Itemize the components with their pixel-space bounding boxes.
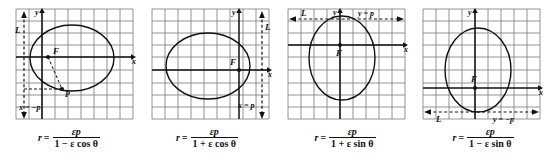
panel-2-formula: r = εp 1 + ε cos θ [138,126,276,162]
panel-1-formula: r = εp 1 − ε cos θ [0,126,138,162]
directrix-arrow-right [532,109,539,115]
panel-3-y-axis-label: y [332,8,337,17]
grid-lines [423,9,540,119]
panel-1-point-label: P [65,90,70,99]
panel-1-y-axis-label: y [34,8,39,17]
panel-1-graph: x y L x = −p F P [0,0,138,128]
panel-2-directrix-line-label: L [264,22,271,32]
panel-3-directrix-label: y = p [357,9,374,18]
directrix-arrow-left [424,109,431,115]
panel-2-graph: x y L x = p F [138,0,276,128]
panel-3-directrix-line-label: L [300,8,307,18]
panel-4-x-axis-label: x [538,88,543,97]
panel-3-formula-denominator: 1 + ε sin θ [329,138,375,149]
figure-panel-2: x y L x = p F r = εp 1 + ε cos θ [138,0,276,162]
axes [423,11,538,119]
panel-1-directrix-line-label: L [14,25,21,35]
panel-4-svg: x y L y = −p F [414,0,552,128]
panel-2-formula-denominator: 1 + ε cos θ [191,138,239,149]
conic-figure-strip: x y L x = −p F P r = εp [0,0,555,162]
figure-panel-1: x y L x = −p F P r = εp [0,0,138,162]
panel-3-formula-lhs: r [314,132,318,143]
panel-3-x-axis-label: x [403,45,408,54]
panel-4-formula: r = εp 1 − ε sin θ [414,126,552,162]
panel-2-formula-equals: = [182,132,188,143]
panel-2-focus-label: F [229,57,236,67]
panel-1-formula-numerator: εp [69,126,84,137]
panel-4-y-axis-label: y [467,8,472,17]
axes [288,11,403,119]
panel-3-svg: x y L y = p F [276,0,414,128]
panel-1-focus-label: F [52,46,59,56]
focus-point [237,68,241,72]
panel-2-directrix-label: x = p [237,101,255,110]
panel-2-svg: x y L x = p F [138,0,276,128]
grid-lines [288,9,405,119]
panel-2-x-axis-label: x [267,70,272,79]
panel-4-directrix-label: y = −p [492,115,514,124]
panel-2-formula-numerator: εp [207,126,222,137]
focus-point [473,86,477,90]
panel-4-formula-equals: = [458,132,464,143]
panel-4-formula-lhs: r [452,132,456,143]
panel-4-formula-denominator: 1 − ε sin θ [467,138,513,149]
panel-3-formula-equals: = [320,132,326,143]
figure-panel-4: x y L y = −p F r = εp 1 − ε sin θ [414,0,552,162]
directrix-arrow-down [259,112,265,119]
panel-1-formula-denominator: 1 − ε cos θ [53,138,101,149]
panel-3-formula-numerator: εp [345,126,360,137]
directrix-arrow-up [21,11,27,18]
panel-1-svg: x y L x = −p F P [0,0,138,128]
panel-3-focus-label: F [335,48,342,58]
focus-point [338,43,342,47]
panel-3-formula: r = εp 1 + ε sin θ [276,126,414,162]
panel-2-formula-lhs: r [176,132,180,143]
figure-panel-3: x y L y = p F r = εp 1 + ε sin θ [276,0,414,162]
directrix-arrow-up [259,11,265,18]
panel-1-x-axis-label: x [131,57,136,66]
panel-4-formula-numerator: εp [483,126,498,137]
conic-curve [166,33,250,99]
panel-4-directrix-line-label: L [435,114,442,124]
conic-curve [309,16,375,100]
panel-1-directrix-label: x = −p [18,103,40,112]
panel-1-formula-lhs: r [38,132,42,143]
panel-1-formula-equals: = [44,132,50,143]
panel-4-focus-label: F [470,74,477,84]
directrix-arrow-down [21,112,27,119]
panel-4-graph: x y L y = −p F [414,0,552,128]
panel-2-y-axis-label: y [231,8,236,17]
panel-3-graph: x y L y = p F [276,0,414,128]
